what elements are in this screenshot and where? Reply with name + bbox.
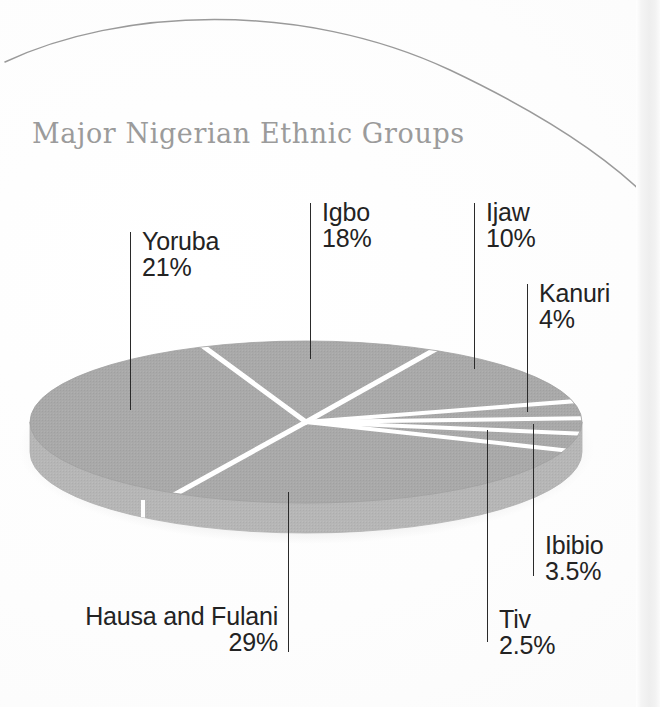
- slice-label-ibibio-name: Ibibio: [545, 531, 604, 559]
- slice-label-hausa-and-fulani: Hausa and Fulani 29%: [0, 603, 278, 656]
- leader-line-igbo: [310, 203, 311, 359]
- leader-line-hausa-and-fulani: [288, 492, 289, 652]
- slice-label-yoruba-percent: 21%: [142, 254, 219, 280]
- slice-label-ijaw-name: Ijaw: [486, 198, 530, 226]
- slice-label-tiv: Tiv 2.5%: [499, 606, 555, 659]
- scanned-page: Major Nigerian Ethnic Groups Yoruba 21% …: [0, 0, 660, 707]
- slice-label-tiv-name: Tiv: [499, 605, 531, 633]
- slice-label-yoruba-name: Yoruba: [142, 227, 219, 255]
- slice-label-ijaw-percent: 10%: [486, 225, 535, 251]
- slice-label-igbo-percent: 18%: [322, 225, 371, 251]
- leader-line-tiv: [487, 430, 488, 642]
- leader-line-yoruba: [130, 232, 131, 410]
- slice-label-ibibio: Ibibio 3.5%: [545, 532, 604, 585]
- pie-chart: [0, 0, 660, 707]
- slice-label-igbo-name: Igbo: [322, 198, 370, 226]
- slice-label-ibibio-percent: 3.5%: [545, 558, 604, 584]
- leader-line-ibibio: [533, 424, 534, 576]
- leader-line-ijaw: [474, 203, 475, 369]
- slice-label-yoruba: Yoruba 21%: [142, 228, 219, 281]
- slice-label-kanuri-percent: 4%: [539, 306, 610, 332]
- slice-label-hausa-and-fulani-percent: 29%: [0, 629, 278, 655]
- slice-label-igbo: Igbo 18%: [322, 199, 371, 252]
- slice-label-ijaw: Ijaw 10%: [486, 199, 535, 252]
- slice-label-kanuri: Kanuri 4%: [539, 280, 610, 333]
- slice-label-hausa-and-fulani-name: Hausa and Fulani: [85, 602, 278, 630]
- slice-label-tiv-percent: 2.5%: [499, 632, 555, 658]
- leader-line-kanuri: [527, 284, 528, 412]
- slice-label-kanuri-name: Kanuri: [539, 279, 610, 307]
- page-title: Major Nigerian Ethnic Groups: [32, 118, 465, 149]
